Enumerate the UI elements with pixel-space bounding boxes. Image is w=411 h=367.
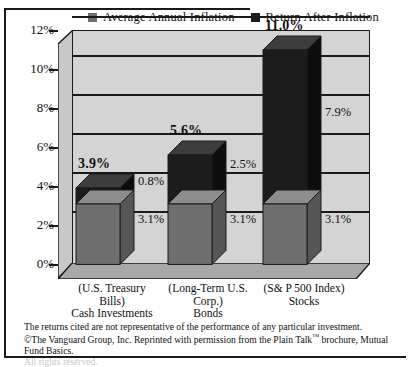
category-paren-line-2: Bills) bbox=[62, 295, 162, 308]
x-axis-category-labels: (U.S. TreasuryBills)Cash Investments(Lon… bbox=[58, 282, 408, 324]
plot-left-wall bbox=[58, 30, 73, 278]
category-name: Bonds bbox=[158, 307, 258, 320]
bar-stocks-inflation bbox=[263, 204, 307, 264]
category-label-bonds: (Long-Term U.S.Corp.)Bonds bbox=[158, 282, 258, 320]
gridline-6% bbox=[72, 133, 370, 135]
bar-inflation-label-cash-investments: 3.1% bbox=[138, 212, 164, 227]
y-axis-label-10%: 10% bbox=[10, 61, 54, 77]
plot-area: 3.9%0.8%3.1%5.6%2.5%3.1%11.0%7.9%3.1% bbox=[58, 30, 370, 278]
category-label-cash-investments: (U.S. TreasuryBills)Cash Investments bbox=[62, 282, 162, 320]
footnote-line-4: All rights reserved. bbox=[24, 356, 411, 367]
bar-return-label-bonds: 2.5% bbox=[230, 157, 256, 172]
category-name: Cash Investments bbox=[62, 307, 162, 320]
y-axis-label-0%: 0% bbox=[10, 256, 54, 272]
bar-return-label-stocks: 7.9% bbox=[325, 105, 351, 120]
footnote-line-2-tail: brochure, Mutual bbox=[319, 334, 388, 345]
bar-inflation-label-bonds: 3.1% bbox=[230, 212, 256, 227]
y-axis-label-6%: 6% bbox=[10, 139, 54, 155]
gridline-10% bbox=[72, 55, 370, 57]
category-paren-line-2: Corp.) bbox=[158, 295, 258, 308]
y-axis-label-4%: 4% bbox=[10, 178, 54, 194]
footnote: The returns cited are not representative… bbox=[24, 321, 411, 367]
y-axis-label-12%: 12% bbox=[10, 22, 54, 38]
footnote-line-1: The returns cited are not representative… bbox=[24, 321, 411, 332]
y-axis-label-2%: 2% bbox=[10, 217, 54, 233]
bar-total-label-cash-investments: 3.9% bbox=[78, 156, 110, 172]
y-axis-label-8%: 8% bbox=[10, 100, 54, 116]
category-name: Stocks bbox=[254, 295, 354, 308]
gridline-8% bbox=[72, 94, 370, 96]
y-axis: 0%2%4%6%8%10%12% bbox=[0, 30, 54, 280]
category-paren-line-1: (Long-Term U.S. bbox=[158, 282, 258, 295]
category-paren-line-1: (S& P 500 Index) bbox=[254, 282, 354, 295]
category-label-stocks: (S& P 500 Index)Stocks bbox=[254, 282, 354, 307]
gridline-12% bbox=[72, 16, 370, 18]
category-paren-line-1: (U.S. Treasury bbox=[62, 282, 162, 295]
footnote-line-2-text: ©The Vanguard Group, Inc. Reprinted with… bbox=[24, 334, 312, 345]
bar-inflation-label-stocks: 3.1% bbox=[325, 212, 351, 227]
bar-total-label-bonds: 5.6% bbox=[170, 123, 202, 139]
bar-return-label-cash-investments: 0.8% bbox=[138, 174, 164, 189]
bar-stocks-return bbox=[263, 50, 307, 204]
footnote-line-2: ©The Vanguard Group, Inc. Reprinted with… bbox=[24, 332, 411, 345]
bar-bonds-inflation bbox=[168, 204, 212, 264]
bar-total-label-stocks: 11.0% bbox=[265, 18, 304, 34]
footnote-line-3: Fund Basics. bbox=[24, 345, 411, 356]
bar-cash-investments-inflation bbox=[76, 204, 120, 264]
plot-floor bbox=[58, 263, 370, 279]
